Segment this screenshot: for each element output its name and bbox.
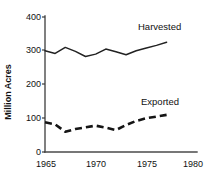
y-tick-label-400: 400 — [26, 12, 41, 22]
series-line-harvested — [45, 42, 167, 56]
chart-container: Million Acres 400 300 200 100 0 1965 197… — [0, 0, 207, 177]
x-tick-labels: 1965 1970 1975 1980 — [36, 159, 203, 169]
series-label-harvested: Harvested — [138, 21, 181, 32]
x-tick-label-1975: 1975 — [137, 159, 157, 169]
series-labels: Harvested Exported — [138, 21, 181, 107]
y-axis-title-group: Million Acres — [3, 64, 13, 120]
series-line-exported — [45, 115, 167, 132]
x-tick-label-1970: 1970 — [86, 159, 106, 169]
y-tick-label-100: 100 — [26, 113, 41, 123]
data-series-group — [45, 42, 167, 131]
x-tick-label-1965: 1965 — [36, 159, 56, 169]
y-tick-label-300: 300 — [26, 45, 41, 55]
series-label-exported: Exported — [141, 96, 179, 107]
y-axis-title: Million Acres — [3, 64, 13, 120]
line-chart: Million Acres 400 300 200 100 0 1965 197… — [0, 0, 207, 177]
y-tick-label-0: 0 — [36, 147, 41, 157]
y-tick-label-200: 200 — [26, 79, 41, 89]
y-tick-labels: 400 300 200 100 0 — [26, 12, 41, 157]
x-tick-label-1980: 1980 — [183, 159, 203, 169]
